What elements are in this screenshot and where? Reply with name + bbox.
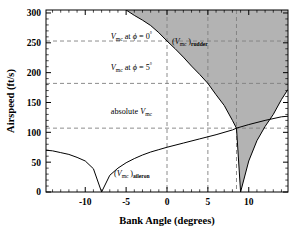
figure-container: -10-50510050100150200250300 Vmc at ϕ = 0… [0,0,300,235]
vmc-vs-bank-angle-chart: -10-50510050100150200250300 Vmc at ϕ = 0… [0,0,300,235]
y-ticklabel-3: 150 [27,98,42,108]
x-ticklabel-4: 10 [244,197,254,207]
y-ticklabel-6: 300 [27,8,42,18]
y-ticklabel-2: 100 [27,128,42,138]
x-ticklabel-3: 5 [206,197,211,207]
x-ticklabel-1: -5 [122,197,130,207]
x-ticklabel-0: -10 [79,197,92,207]
y-ticklabel-0: 0 [36,187,41,197]
y-ticklabel-1: 50 [32,158,42,168]
y-ticklabel-4: 200 [27,68,42,78]
x-axis-title: Bank Angle (degrees) [119,215,215,227]
x-ticklabel-2: 0 [165,197,170,207]
y-ticklabel-5: 250 [27,38,42,48]
y-axis-title: Airspeed (ft/s) [5,69,17,133]
